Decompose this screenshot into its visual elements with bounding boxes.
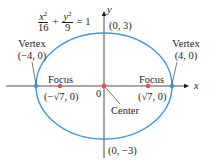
eq-plus: + [51,16,61,27]
left-vertex-point [34,84,38,88]
right-focus-title: Focus [139,74,164,85]
right-vertex-point [170,84,174,88]
eq-y-exp: 2 [68,10,72,18]
eq-x-denominator: 16 [38,23,49,33]
right-vertex-coord: (4, 0) [166,50,206,61]
eq-equals: = 1 [75,16,93,27]
center-point [102,84,107,89]
left-vertex-title: Vertex [12,38,52,49]
equation-term-y: y2 9 [62,9,72,33]
ellipse-diagram: x2 16 + y2 9 = 1 y x 0 (0, 3) (0, −3) Ve… [0,0,209,160]
right-vertex-title: Vertex [166,38,206,49]
top-point-label: (0, 3) [109,20,132,31]
equation-term-x: x2 16 [38,9,49,33]
bottom-point-label: (0, −3) [108,145,137,156]
origin-label: 0 [96,88,101,99]
center-label: Center [111,105,139,116]
ellipse-equation: x2 16 + y2 9 = 1 [38,9,92,33]
x-axis-label: x [194,80,199,91]
left-vertex-leader [32,62,36,84]
diagram-graphics [0,0,209,160]
left-focus-coord: (−√7, 0) [44,91,78,102]
right-focus-coord: (√7, 0) [138,91,167,102]
center-leader [106,88,120,104]
eq-x-exp: 2 [44,10,48,18]
left-vertex-coord: (−4, 0) [12,50,52,61]
right-vertex-leader [172,62,177,84]
left-focus-title: Focus [48,74,73,85]
eq-y-denominator: 9 [65,23,70,33]
y-axis-label: y [107,4,112,15]
